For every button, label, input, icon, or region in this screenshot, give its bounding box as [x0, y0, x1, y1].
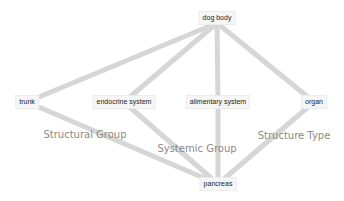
node-label: trunk [19, 98, 35, 105]
node-label: pancreas [204, 180, 233, 187]
node-label: endocrine system [97, 98, 152, 105]
node-trunk[interactable]: trunk [15, 95, 39, 109]
edge-dog_body-endocrine_system [124, 23, 217, 102]
group-label-structural-group: Structural Group [43, 129, 126, 140]
edge-dog_body-alimentary_system [217, 23, 218, 102]
group-label-structure-type: Structure Type [258, 130, 331, 141]
node-label: organ [305, 98, 323, 105]
edge-dog_body-organ [217, 23, 314, 102]
edge-dog_body-trunk [27, 23, 217, 102]
node-organ[interactable]: organ [301, 95, 327, 109]
diagram-canvas: dog body trunk endocrine system alimenta… [0, 0, 344, 201]
node-alimentary-system[interactable]: alimentary system [186, 95, 250, 109]
node-pancreas[interactable]: pancreas [200, 177, 237, 191]
node-endocrine-system[interactable]: endocrine system [93, 95, 156, 109]
node-label: dog body [203, 14, 232, 21]
node-dog-body[interactable]: dog body [199, 11, 236, 25]
edge-layer [0, 0, 344, 201]
node-label: alimentary system [190, 98, 246, 105]
group-label-systemic-group: Systemic Group [157, 143, 236, 154]
